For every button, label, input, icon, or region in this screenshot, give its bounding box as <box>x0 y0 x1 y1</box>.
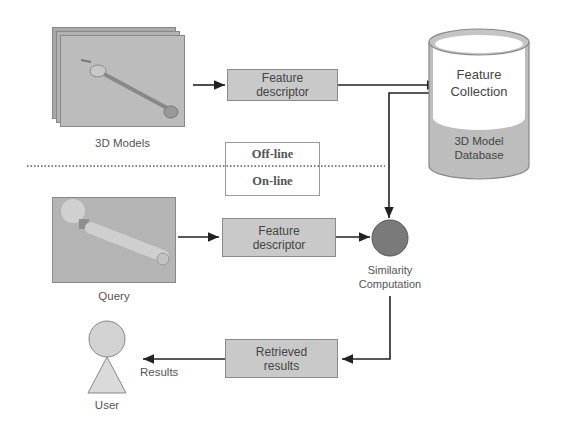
similarity-line1: Similarity <box>345 263 435 277</box>
database-line2: Database <box>433 148 525 162</box>
descriptor-line1: Feature <box>258 224 299 238</box>
database-label: 3D Model Database <box>433 134 525 162</box>
online-feature-descriptor: Feature descriptor <box>222 218 336 257</box>
user-figure <box>88 321 126 393</box>
offline-label: Off-line <box>226 147 319 162</box>
collection-line2: Collection <box>433 83 525 100</box>
retrieved-results-box: Retrieved results <box>225 339 338 378</box>
model-card-front <box>60 35 185 127</box>
descriptor-line1: Feature <box>262 71 303 85</box>
collection-line1: Feature <box>433 66 525 83</box>
wrench-query-icon <box>53 198 177 284</box>
mode-box: Off-line On-line <box>225 142 320 196</box>
similarity-line2: Computation <box>345 277 435 291</box>
offline-feature-descriptor: Feature descriptor <box>227 69 338 101</box>
descriptor-line2: descriptor <box>256 85 309 99</box>
database-line1: 3D Model <box>433 134 525 148</box>
user-label: User <box>82 398 132 412</box>
online-label: On-line <box>226 174 319 189</box>
results-label: Results <box>140 365 188 379</box>
retrieved-line1: Retrieved <box>256 345 307 359</box>
similarity-label: Similarity Computation <box>345 263 435 291</box>
descriptor-line2: descriptor <box>253 238 306 252</box>
models-label: 3D Models <box>60 136 185 150</box>
query-label: Query <box>52 289 176 303</box>
feature-collection-label: Feature Collection <box>433 66 525 100</box>
retrieved-line2: results <box>264 359 299 373</box>
query-image <box>52 197 176 283</box>
wrench-model-icon <box>61 36 186 128</box>
similarity-node <box>372 220 408 256</box>
